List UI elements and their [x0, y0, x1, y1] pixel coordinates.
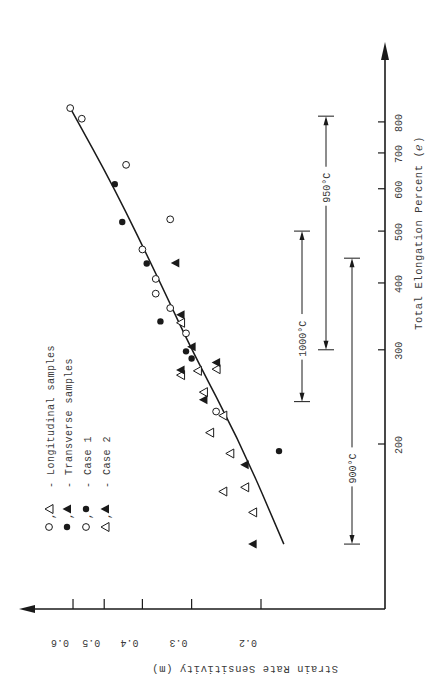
filled-circle-icon	[83, 506, 89, 512]
y-axis-title: Strain Rate Sensitivity (m)	[152, 663, 338, 675]
filled-circle-icon	[157, 318, 163, 324]
filled-triangle-icon	[199, 395, 208, 404]
filled-triangle-icon	[101, 505, 110, 514]
open-circle-icon	[167, 216, 174, 223]
open-circle-icon	[78, 115, 85, 122]
filled-triangle-icon	[171, 258, 180, 267]
arrowhead-icon	[300, 231, 305, 240]
y-tick-label: 0.4	[120, 637, 138, 648]
x-axis-title: Total Elongation Percent (ℯ)	[413, 136, 425, 330]
open-triangle-icon	[241, 483, 249, 492]
x-axis-arrow-icon	[381, 42, 389, 60]
open-triangle-icon	[45, 505, 53, 514]
axes	[19, 42, 389, 613]
legend: ,- Longitudinal samples,- Transverse sam…	[45, 345, 113, 532]
x-tick-label: 600	[394, 181, 405, 199]
filled-circle-icon	[112, 181, 118, 187]
filled-circle-icon	[144, 260, 150, 266]
open-circle-icon	[139, 246, 146, 253]
open-circle-icon	[67, 105, 74, 112]
x-tick-label: 200	[394, 436, 405, 454]
open-triangle-icon	[219, 487, 227, 496]
temperature-label: 950°C	[322, 173, 333, 203]
y-tick-label: 0.6	[51, 637, 69, 648]
y-tick-label: 0.3	[170, 637, 188, 648]
y-axis-arrow-icon	[19, 605, 35, 613]
arrowhead-icon	[324, 341, 329, 350]
temperature-label: 1000°C	[298, 321, 309, 357]
legend-label: - Longitudinal samples	[46, 345, 57, 488]
open-triangle-icon	[219, 411, 227, 420]
filled-triangle-icon	[240, 460, 249, 469]
legend-label: - Case 2	[102, 436, 113, 488]
legend-item: ,- Case 2	[101, 436, 114, 532]
temperature-bar: 1000°C	[294, 231, 310, 402]
legend-label: - Transverse samples	[64, 358, 75, 488]
open-circle-icon	[213, 408, 220, 415]
legend-comma: ,	[102, 513, 113, 519]
filled-triangle-icon	[63, 505, 72, 514]
arrowhead-icon	[324, 116, 329, 125]
legend-comma: ,	[64, 513, 75, 519]
open-circle-icon	[152, 290, 159, 297]
temperature-bar: 900°C	[344, 258, 360, 544]
legend-label: - Case 1	[83, 436, 94, 488]
open-circle-icon	[167, 305, 174, 312]
arrowhead-icon	[350, 258, 355, 267]
temperature-bar: 950°C	[318, 116, 334, 350]
x-tick-label: 300	[394, 342, 405, 360]
x-tick-label: 800	[394, 114, 405, 132]
x-tick-label: 500	[394, 223, 405, 241]
temperature-label: 900°C	[348, 453, 359, 483]
temperature-range-bars: 900°C950°C1000°C	[294, 116, 360, 544]
arrowhead-icon	[350, 535, 355, 544]
filled-circle-icon	[64, 524, 70, 530]
filled-circle-icon	[276, 448, 282, 454]
legend-item: ,- Transverse samples	[63, 358, 76, 530]
open-triangle-icon	[249, 508, 257, 517]
open-circle-icon	[183, 330, 190, 337]
open-triangle-icon	[193, 366, 201, 375]
legend-comma: ,	[83, 513, 94, 519]
filled-circle-icon	[183, 348, 189, 354]
filled-triangle-icon	[248, 540, 257, 549]
open-triangle-icon	[199, 388, 207, 397]
y-tick-label: 0.5	[82, 637, 100, 648]
data-points	[67, 105, 282, 549]
open-triangle-icon	[101, 523, 109, 532]
filled-circle-icon	[119, 219, 125, 225]
open-circle-icon	[123, 161, 130, 168]
legend-item: ,- Case 1	[83, 436, 95, 530]
arrowhead-icon	[300, 393, 305, 402]
strain-rate-chart: 2003004005006007008000.20.30.40.50.6 900…	[0, 0, 434, 698]
filled-triangle-icon	[212, 358, 221, 367]
open-triangle-icon	[206, 428, 214, 437]
open-triangle-icon	[226, 449, 234, 458]
filled-circle-icon	[188, 355, 194, 361]
y-tick-label: 0.2	[239, 637, 257, 648]
open-circle-icon	[152, 276, 159, 283]
legend-comma: ,	[46, 513, 57, 519]
open-circle-icon	[83, 524, 90, 531]
x-tick-label: 400	[394, 275, 405, 293]
legend-item: ,- Longitudinal samples	[45, 345, 57, 530]
x-tick-label: 700	[394, 145, 405, 163]
open-circle-icon	[46, 524, 53, 531]
